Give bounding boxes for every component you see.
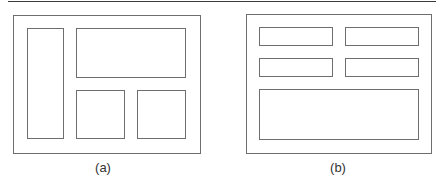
panel-b-caption: (b) bbox=[318, 160, 358, 175]
panel-b-row2-left-block bbox=[259, 58, 333, 77]
panel-b-bottom-wide-block bbox=[259, 89, 419, 140]
panel-b-row2-right-block bbox=[345, 58, 419, 77]
panel-a-caption: (a) bbox=[83, 160, 123, 175]
panel-b-row1-left-block bbox=[259, 27, 333, 46]
top-rule bbox=[8, 1, 436, 2]
panel-a-bottom-right-block bbox=[137, 90, 186, 139]
panel-a-top-wide-block bbox=[76, 28, 186, 78]
panel-b-row1-right-block bbox=[345, 27, 419, 46]
panel-a-left-column bbox=[27, 28, 64, 139]
panel-a-bottom-middle-block bbox=[76, 90, 125, 139]
